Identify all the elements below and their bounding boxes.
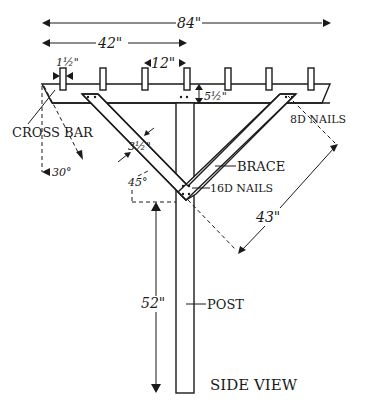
brace-angle-label: 45°: [127, 176, 148, 189]
overall-width-label: 84": [177, 15, 201, 31]
view-title: SIDE VIEW: [210, 376, 298, 394]
post-label: POST: [207, 297, 244, 312]
nails-16d-label: 16D NAILS: [210, 182, 273, 195]
side-view-diagram: 84" 42" 1½" 12": [0, 0, 373, 402]
nails-8d-label: 8D NAILS: [290, 113, 346, 126]
crossbar-angle-label: 30°: [52, 166, 72, 179]
post: [176, 103, 194, 393]
half-width-label: 42": [97, 35, 122, 51]
crossbar-height-label: 5½": [204, 90, 227, 103]
post-height-label: 52": [141, 295, 165, 311]
post-callout: POST: [186, 297, 244, 312]
half-width-dimension: 42": [42, 35, 187, 51]
post-height-dimension: 52": [141, 202, 165, 393]
slat-spacing-dimension: 12": [144, 55, 186, 71]
brace-length-label: 43": [255, 209, 280, 225]
cross-bar-label: CROSS BAR: [12, 125, 94, 140]
slat-spacing-label: 12": [151, 55, 175, 71]
brace-width-label: 3½": [128, 140, 151, 153]
overall-width-dimension: 84": [42, 15, 331, 31]
slat-width-label: 1½": [56, 56, 79, 69]
brace-label: BRACE: [237, 159, 285, 174]
